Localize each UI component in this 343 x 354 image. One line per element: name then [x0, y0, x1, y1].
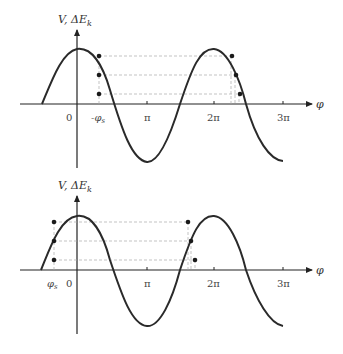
bottom-y-label: V, ΔEk — [58, 179, 92, 194]
bottom-tick-3pi: 3π — [277, 278, 290, 289]
top-tick-pi: π — [144, 112, 151, 123]
top-y-label: V, ΔEk — [58, 13, 92, 28]
bottom-x-label: φ — [316, 264, 324, 277]
bottom-tick-phis: φs — [47, 278, 58, 291]
top-dashed-guides — [99, 56, 240, 104]
top-diagram: V, ΔEk φ 0 -φs π 2π 3π — [20, 13, 324, 168]
top-tick-3pi: 3π — [277, 112, 290, 123]
top-tick-neg-phis: -φs — [91, 112, 105, 125]
top-x-label: φ — [316, 98, 324, 111]
bottom-tick-2pi: 2π — [207, 278, 220, 289]
bottom-diagram: V, ΔEk φ φs 0 π 2π 3π — [20, 179, 324, 334]
bottom-tick-zero: 0 — [66, 278, 72, 289]
bottom-dashed-guides — [54, 222, 195, 270]
top-tick-zero: 0 — [66, 112, 72, 123]
bottom-tick-pi: π — [144, 278, 151, 289]
top-tick-2pi: 2π — [207, 112, 220, 123]
phase-stability-diagram: V, ΔEk φ 0 -φs π 2π 3π — [0, 0, 343, 354]
top-rf-voltage-curve — [42, 49, 283, 162]
